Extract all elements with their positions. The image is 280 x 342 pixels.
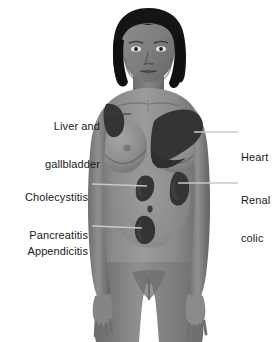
hand-right: [186, 294, 206, 326]
navel: [147, 206, 152, 213]
referred-pain-diagram: Liver and gallbladder Cholecystitis Panc…: [0, 0, 280, 342]
label-renal-colic: Renal colic: [241, 169, 280, 269]
label-appendicitis-line-1: Appendicitis: [8, 245, 88, 258]
label-cholecystitis-pancreatitis-line-1: Cholecystitis: [6, 191, 88, 204]
label-renal-colic-line-2: colic: [241, 232, 280, 245]
label-liver-and-gallbladder-line-1: Liver and: [18, 120, 100, 133]
nostril-left: [144, 63, 147, 65]
nostril-right: [151, 63, 154, 65]
nipple-left: [123, 145, 130, 151]
label-appendicitis: Appendicitis: [8, 220, 88, 283]
label-heart-line-1: Heart: [241, 151, 280, 164]
pupil-right: [159, 47, 163, 51]
label-renal-colic-line-1: Renal: [241, 194, 280, 207]
pupil-left: [134, 47, 138, 51]
